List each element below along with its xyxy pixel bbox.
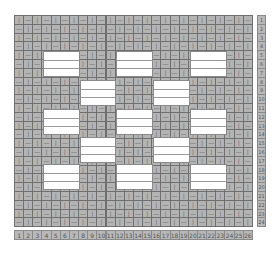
block-divider-line (117, 60, 152, 61)
block-divider-line (154, 154, 189, 155)
grid-cell[interactable]: | (243, 217, 253, 227)
block-divider-line (44, 60, 79, 61)
block-divider-line (44, 68, 79, 69)
block-divider-line (117, 173, 152, 174)
block-divider-line (154, 97, 189, 98)
white-block (153, 137, 190, 163)
grid-divider (14, 227, 252, 228)
block-divider-line (44, 126, 79, 127)
block-divider-line (191, 173, 226, 174)
block-divider-line (117, 68, 152, 69)
block-divider-line (117, 118, 152, 119)
row-number: 24 (257, 217, 266, 227)
block-divider-line (117, 126, 152, 127)
block-divider-line (81, 89, 115, 90)
white-block (116, 51, 153, 77)
block-divider-line (117, 181, 152, 182)
white-block (43, 51, 80, 77)
white-block (116, 164, 153, 190)
block-divider-line (81, 146, 115, 147)
block-divider-line (44, 181, 79, 182)
white-block (80, 80, 116, 106)
white-block (190, 51, 227, 77)
block-divider-line (154, 146, 189, 147)
white-block (190, 109, 227, 135)
white-block (43, 109, 80, 135)
block-divider-line (191, 126, 226, 127)
white-block (116, 109, 153, 135)
block-divider-line (81, 154, 115, 155)
block-divider-line (191, 68, 226, 69)
block-divider-line (191, 118, 226, 119)
block-divider-line (81, 97, 115, 98)
block-divider-line (191, 181, 226, 182)
column-number: 26 (243, 230, 253, 240)
white-block (43, 164, 80, 190)
white-block (153, 80, 190, 106)
block-divider-line (191, 60, 226, 61)
white-block (80, 137, 116, 163)
block-divider-line (44, 173, 79, 174)
block-divider-line (44, 118, 79, 119)
white-block (190, 164, 227, 190)
block-divider-line (154, 89, 189, 90)
